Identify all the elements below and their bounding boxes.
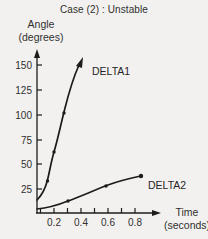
series-label-delta2: DELTA2 bbox=[148, 179, 186, 191]
y-tick-label-25: 25 bbox=[6, 185, 32, 195]
series-delta1-arrow-icon bbox=[76, 57, 83, 68]
data-point bbox=[104, 184, 107, 187]
x-axis-label-name: Time bbox=[164, 206, 208, 219]
x-axis bbox=[36, 208, 161, 216]
y-axis-label-units: (degrees) bbox=[8, 31, 74, 44]
chart-figure: Case (2) : Unstable Angle (degrees) Time… bbox=[0, 0, 208, 239]
y-axis bbox=[34, 49, 42, 213]
series-delta1 bbox=[37, 57, 83, 200]
x-tick-label-0.4: 0.4 bbox=[70, 218, 92, 228]
y-axis-arrow-icon bbox=[34, 49, 40, 58]
series-label-delta1: DELTA1 bbox=[92, 65, 130, 77]
y-axis-ticks bbox=[37, 65, 42, 189]
y-tick-label-150: 150 bbox=[6, 61, 32, 71]
data-point-endpoint bbox=[139, 174, 143, 178]
x-axis-label: Time (seconds) bbox=[164, 206, 208, 231]
y-tick-label-75: 75 bbox=[6, 136, 32, 146]
data-point bbox=[66, 199, 69, 202]
y-tick-label-100: 100 bbox=[6, 111, 32, 121]
x-axis-label-units: (seconds) bbox=[164, 219, 208, 232]
x-axis-ticks bbox=[41, 208, 136, 213]
x-axis-arrow-icon bbox=[152, 210, 161, 216]
y-axis-label: Angle (degrees) bbox=[8, 18, 74, 43]
y-tick-label-50: 50 bbox=[6, 160, 32, 170]
y-axis-label-name: Angle bbox=[8, 18, 74, 31]
y-tick-label-125: 125 bbox=[6, 86, 32, 96]
series-delta1-line bbox=[37, 65, 79, 200]
x-tick-label-0.2: 0.2 bbox=[43, 218, 65, 228]
data-point bbox=[52, 150, 55, 153]
series-delta2 bbox=[37, 174, 143, 209]
x-tick-label-0.6: 0.6 bbox=[97, 218, 119, 228]
data-point bbox=[62, 111, 65, 114]
data-point bbox=[46, 179, 49, 182]
chart-title: Case (2) : Unstable bbox=[0, 4, 208, 15]
x-tick-label-0.8: 0.8 bbox=[124, 218, 146, 228]
series-delta2-line bbox=[37, 176, 141, 209]
